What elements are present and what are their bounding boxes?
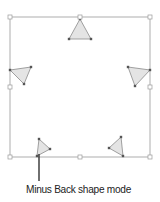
resize-handle-icon	[8, 85, 12, 89]
resize-handle-icon	[78, 15, 82, 19]
shape-mode-illustration	[0, 0, 160, 202]
anchor-point-icon	[108, 147, 110, 149]
triangle-right	[128, 67, 150, 86]
anchor-point-icon	[23, 83, 25, 85]
triangle-top	[69, 19, 91, 39]
figure-caption: Minus Back shape mode	[26, 183, 149, 195]
resize-handle-icon	[8, 15, 12, 19]
anchor-point-icon	[90, 38, 92, 40]
triangle-bottom-right	[109, 137, 123, 156]
resize-handle-icon	[148, 85, 152, 89]
anchor-point-icon	[149, 69, 151, 71]
anchor-point-icon	[120, 136, 122, 138]
triangle-bottom-left	[37, 139, 50, 156]
triangle-left	[10, 67, 31, 84]
anchor-point-icon	[122, 155, 124, 157]
anchor-point-icon	[36, 155, 38, 157]
triangle-group	[9, 18, 151, 157]
resize-handle-icon	[8, 155, 12, 159]
anchor-point-icon	[68, 38, 70, 40]
resize-handle-icon	[78, 155, 82, 159]
resize-handle-icon	[148, 155, 152, 159]
anchor-point-icon	[38, 138, 40, 140]
anchor-point-icon	[30, 66, 32, 68]
anchor-point-icon	[49, 148, 51, 150]
resize-handle-icon	[148, 15, 152, 19]
anchor-point-icon	[9, 69, 11, 71]
anchor-point-icon	[134, 85, 136, 87]
anchor-point-icon	[127, 66, 129, 68]
